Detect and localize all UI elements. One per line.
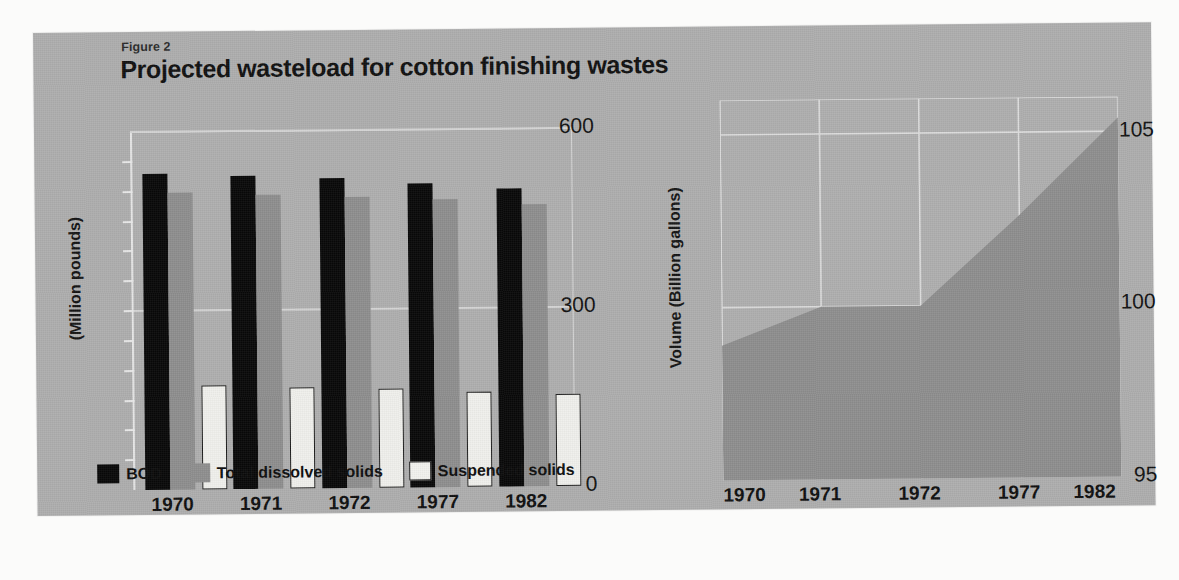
bar-chart-axis-tick [125,459,135,461]
bar-chart-series [34,90,594,95]
bar-tds [168,192,196,489]
area-chart-x-tick-label: 1971 [799,483,841,505]
bar-chart-axis-tick [123,191,133,193]
bar-chart-axis-tick [124,370,134,372]
bar-group [319,130,399,489]
area-chart: Volume (Billion gallons) 95100105 197019… [634,84,1158,509]
bar-group [230,130,310,489]
area-chart-plot-area [720,97,1122,481]
area-chart-x-tick-labels: 19701971197219771982 [634,84,1154,89]
bar-tds [256,195,284,489]
legend-swatch-bod [97,464,119,483]
area-chart-y-tick-labels: 95100105 [634,84,1154,89]
legend-label: BOD [126,464,162,482]
bar-chart-gridlines [34,90,594,95]
legend-item: Suspended solids [409,460,575,481]
bar-bod [319,178,347,488]
bar-chart-axis-tick [124,340,134,342]
bar-chart-x-tick-label: 1977 [417,491,459,513]
bar-tds [521,204,549,486]
bar-chart-axis-tick [123,221,133,223]
bar-chart-axis-tick [124,310,134,312]
bar-chart-axis-tick [123,250,133,252]
bar-chart-axis-tick [122,161,132,163]
bar-tds [433,199,461,487]
bar-group [496,128,576,487]
area-chart-svg [720,97,1122,481]
legend-item: Total dissolved solids [188,462,383,483]
legend-swatch-tds [188,463,210,482]
bar-chart-x-tick-label: 1971 [240,493,282,515]
bar-tds [344,197,372,488]
area-chart-y-axis-label: Volume (Billion gallons) [665,128,686,428]
area-chart-x-tick-label: 1977 [998,481,1040,503]
area-chart-x-tick-label: 1970 [723,484,765,506]
bar-group [407,129,487,488]
bar-group [142,131,222,490]
bar-chart-x-tick-label: 1972 [328,492,370,514]
bar-chart-axis-tick [123,280,133,282]
bar-bod [408,183,436,488]
figure-number-label: Figure 2 [121,40,171,54]
bar-bod [142,173,170,489]
bar-chart-axis-tick [125,429,135,431]
bar-bod [231,176,259,489]
bar-bod [496,188,524,487]
bar-chart-x-tick-labels: 19701971197219771982 [34,90,594,95]
legend-item: BOD [97,464,162,484]
bar-chart-axis-tick [125,400,135,402]
scanned-page: Figure 2 Projected wasteload for cotton … [0,0,1179,580]
bar-chart: (Million pounds) 0300600 197019711972197… [34,90,598,515]
bar-chart-x-tick-label: 1970 [151,493,193,515]
figure-title: Projected wasteload for cotton finishing… [120,50,668,84]
legend-label: Total dissolved solids [217,462,383,482]
area-chart-x-tick-label: 1972 [898,482,940,504]
area-chart-x-tick-label: 1982 [1073,481,1115,503]
bar-chart-y-tick-labels: 0300600 [34,90,594,95]
area-chart-y-tick-label: 105 [1078,118,1154,140]
legend-label: Suspended solids [438,460,575,479]
bar-chart-y-axis-label: (Million pounds) [65,179,85,379]
figure-panel: Figure 2 Projected wasteload for cotton … [33,22,1156,516]
area-chart-y-tick-label: 100 [1080,291,1156,313]
legend-swatch-ss [409,461,431,480]
bar-chart-x-tick-label: 1982 [505,490,547,512]
